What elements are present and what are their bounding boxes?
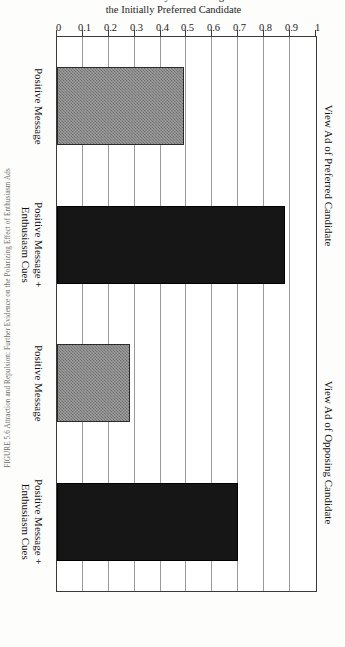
bar-3: [57, 344, 130, 422]
plot-area: 10.90.80.70.60.50.40.30.20.10 Positive M…: [56, 36, 317, 592]
category-label-line1: Positive Message +: [33, 202, 45, 288]
category-label-3: Positive Message: [33, 308, 46, 458]
axis-tick-label: 0.9: [285, 22, 298, 33]
bar-1: [57, 67, 184, 145]
group-label-2: View Ad of Opposing Candidate: [323, 343, 335, 563]
gridline: [263, 37, 264, 591]
axis-tick-label: 0.4: [156, 22, 169, 33]
category-label-line1: Positive Message: [33, 68, 45, 145]
bar-chart: 10.90.80.70.60.50.40.30.20.10 Positive M…: [0, 0, 345, 647]
bar-4: [57, 483, 238, 561]
axis-tick-label: 0.2: [104, 22, 117, 33]
category-label-1: Positive Message: [33, 31, 46, 181]
category-label-line2: Enthusiasm Cues: [21, 484, 33, 560]
gridline: [289, 37, 290, 591]
axis-tick-label: 0: [56, 22, 61, 33]
group-label-1: View Ad of Preferred Candidate: [323, 66, 335, 286]
axis-tick-label: 0.5: [181, 22, 194, 33]
category-label-4: Positive Message +Enthusiasm Cues: [20, 447, 45, 597]
category-label-2: Positive Message +Enthusiasm Cues: [20, 170, 45, 320]
axis-tick-label: 0.3: [130, 22, 143, 33]
category-label-line1: Positive Message: [33, 345, 45, 422]
axis-tick-label: 0.7: [233, 22, 246, 33]
axis-tick-label: 0.1: [78, 22, 91, 33]
bar-2: [57, 206, 285, 284]
value-axis-title-line2: the Initially Preferred Candidate: [64, 3, 284, 16]
figure-page: FIGURE 5.6 Attraction and Repulsion: Fur…: [0, 0, 345, 647]
chart-rotation-wrapper: 10.90.80.70.60.50.40.30.20.10 Positive M…: [0, 0, 345, 647]
axis-tick-label: 0.8: [259, 22, 272, 33]
category-label-line1: Positive Message +: [33, 479, 45, 565]
category-label-line2: Enthusiasm Cues: [21, 207, 33, 283]
axis-tick-label: 1: [315, 22, 320, 33]
axis-tick-label: 0.6: [207, 22, 220, 33]
value-axis-title: Probability of Choosing the Initially Pr…: [64, 0, 284, 16]
